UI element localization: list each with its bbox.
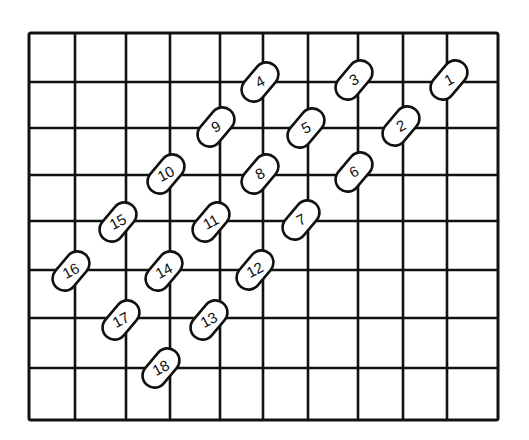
numbered-pill: 17 <box>98 295 145 344</box>
numbered-pill: 10 <box>143 149 190 198</box>
numbered-pill: 2 <box>378 101 425 150</box>
numbered-pill: 4 <box>237 57 284 106</box>
numbered-pill: 15 <box>95 197 142 246</box>
numbered-pill: 5 <box>283 103 330 152</box>
numbered-pill: 16 <box>48 246 95 295</box>
numbered-pills: 123456789101112131415161718 <box>48 55 473 392</box>
numbered-pill: 11 <box>188 197 235 246</box>
numbered-pill: 3 <box>331 55 378 104</box>
numbered-pill: 6 <box>331 147 378 196</box>
grid-diagram: 123456789101112131415161718 <box>0 0 529 440</box>
numbered-pill: 18 <box>138 343 185 392</box>
numbered-pill: 12 <box>232 245 279 294</box>
numbered-pill: 7 <box>278 195 325 244</box>
numbered-pill: 9 <box>193 102 240 151</box>
numbered-pill: 1 <box>426 55 473 104</box>
numbered-pill: 14 <box>141 246 188 295</box>
numbered-pill: 13 <box>186 295 233 344</box>
numbered-pill: 8 <box>237 149 284 198</box>
